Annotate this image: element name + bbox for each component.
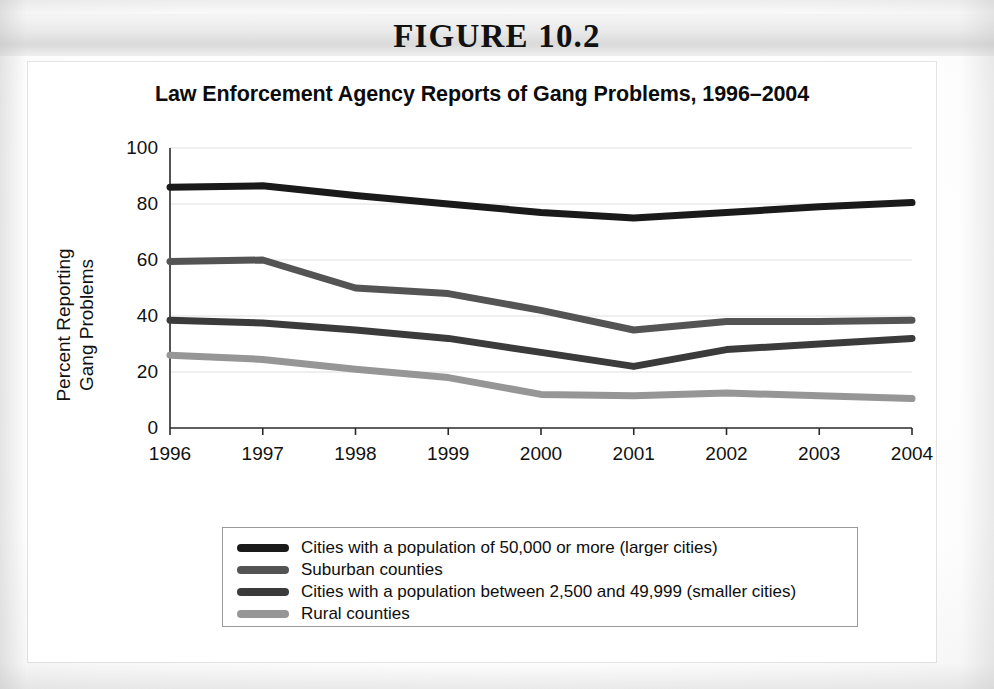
y-axis-title-line2: Gang Problems: [75, 210, 98, 440]
x-axis-tick-label: 1997: [223, 444, 303, 463]
x-axis-tick-label: 2003: [779, 444, 859, 463]
y-axis-title: Percent Reporting Gang Problems: [52, 210, 98, 440]
grid-lines: [170, 148, 912, 372]
figure-number-label: FIGURE 10.2: [0, 17, 994, 55]
x-axis-tick-label: 2004: [872, 444, 952, 463]
x-axis-tick-label: 1998: [316, 444, 396, 463]
legend-swatch-icon: [237, 544, 289, 552]
x-axis-tick-label: 1999: [408, 444, 488, 463]
legend-item-label: Suburban counties: [301, 560, 443, 580]
legend-item: Cities with a population of 50,000 or mo…: [223, 537, 857, 558]
x-axis-tick-label: 2001: [594, 444, 674, 463]
legend-swatch-icon: [237, 588, 289, 596]
y-axis-tick-label: 0: [112, 418, 158, 437]
y-axis-tick-label: 100: [112, 138, 158, 157]
legend-item: Rural counties: [223, 603, 857, 624]
legend-item: Cities with a population between 2,500 a…: [223, 581, 857, 602]
series-line-1: [170, 260, 912, 330]
x-axis-tick-label: 1996: [130, 444, 210, 463]
legend-swatch-icon: [237, 610, 289, 618]
legend-item-label: Rural counties: [301, 604, 410, 624]
x-axis-tick-label: 2002: [687, 444, 767, 463]
legend-item: Suburban counties: [223, 559, 857, 580]
series-line-0: [170, 186, 912, 218]
series-line-3: [170, 355, 912, 398]
legend-swatch-icon: [237, 566, 289, 574]
y-axis-title-line1: Percent Reporting: [52, 210, 75, 440]
y-axis-tick-label: 20: [112, 362, 158, 381]
legend-item-label: Cities with a population of 50,000 or mo…: [301, 538, 718, 558]
y-axis-tick-label: 80: [112, 194, 158, 213]
y-axis-tick-label: 60: [112, 250, 158, 269]
x-axis-ticks: [170, 428, 912, 435]
y-axis-tick-label: 40: [112, 306, 158, 325]
figure-page: FIGURE 10.2 Law Enforcement Agency Repor…: [0, 0, 994, 689]
legend-item-label: Cities with a population between 2,500 a…: [301, 582, 796, 602]
chart-legend: Cities with a population of 50,000 or mo…: [222, 527, 858, 627]
x-axis-tick-label: 2000: [501, 444, 581, 463]
figure-panel: Law Enforcement Agency Reports of Gang P…: [28, 62, 936, 662]
